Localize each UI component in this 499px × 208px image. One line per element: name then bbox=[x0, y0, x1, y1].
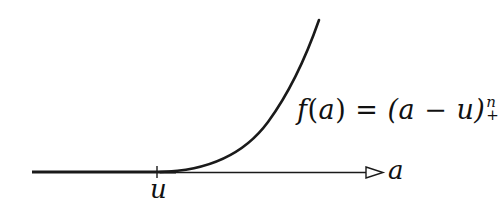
axis-arrowhead-icon bbox=[366, 167, 383, 178]
a-axis-label: a bbox=[388, 155, 404, 185]
formula-subscript: + bbox=[486, 109, 499, 122]
formula-rhs-base: (a − u) bbox=[388, 94, 486, 125]
formula-function-name: f bbox=[297, 94, 308, 125]
formula-close-paren: ) bbox=[335, 94, 346, 125]
function-formula: f(a) = (a − u)n+ bbox=[297, 94, 499, 125]
u-tick-label: u bbox=[150, 174, 167, 204]
formula-open-paren: ( bbox=[308, 94, 319, 125]
power-curve bbox=[160, 20, 319, 172]
formula-scripts: n+ bbox=[486, 96, 499, 122]
formula-equals: = bbox=[355, 94, 378, 125]
formula-argument: a bbox=[319, 94, 336, 125]
